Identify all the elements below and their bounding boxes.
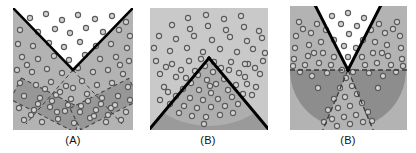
caption-panel-a: (A) — [43, 134, 103, 146]
caption-panel-b-right: (B) — [318, 134, 378, 146]
panel-b-right — [0, 0, 416, 153]
figure-container: (A) (B) (B) — [0, 0, 416, 153]
caption-panel-b-middle: (B) — [178, 134, 238, 146]
